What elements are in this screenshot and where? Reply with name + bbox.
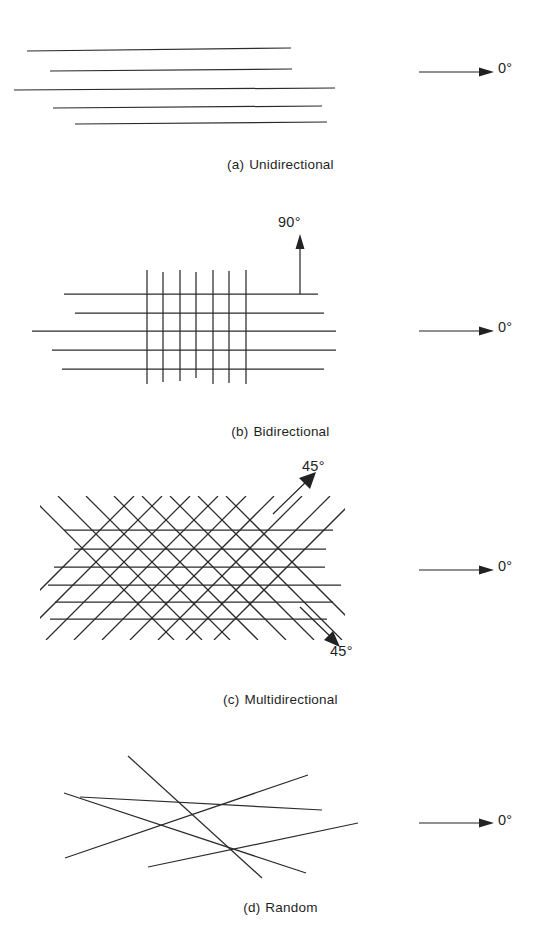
caption-index-d: (d) bbox=[243, 900, 260, 915]
panel-c-artwork bbox=[0, 440, 545, 710]
reference-arrow-0deg-b bbox=[419, 327, 494, 336]
fiber-lines-unidirectional bbox=[14, 48, 335, 124]
caption-text-b: Bidirectional bbox=[253, 424, 329, 439]
caption-text-a: Unidirectional bbox=[249, 157, 334, 172]
angle-label-minus45deg-c: 45° bbox=[330, 643, 353, 659]
reference-arrow-plus45deg-c bbox=[273, 472, 316, 514]
reference-arrow-minus45deg-c bbox=[300, 607, 340, 647]
angle-label-plus45deg-c: 45° bbox=[302, 458, 325, 474]
panel-multidirectional: 45° 45° 0° bbox=[0, 440, 545, 710]
angle-label-0deg-d: 0° bbox=[498, 812, 512, 828]
fiber-lines-horizontal-c bbox=[48, 530, 341, 619]
angle-label-0deg-c: 0° bbox=[498, 558, 512, 574]
caption-index-a: (a) bbox=[227, 157, 244, 172]
panel-bidirectional: 90° 0° bbox=[0, 190, 545, 440]
caption-random: (d)Random bbox=[0, 885, 545, 928]
angle-label-0deg-b: 0° bbox=[498, 319, 512, 335]
fiber-orientation-figure: 0° (a)Unidirectional bbox=[0, 0, 545, 928]
reference-arrow-0deg-a bbox=[419, 68, 494, 77]
reference-arrow-0deg-c bbox=[419, 566, 494, 575]
fiber-lines-random-d bbox=[64, 756, 358, 878]
caption-text-d: Random bbox=[265, 900, 317, 915]
reference-arrow-90deg-b bbox=[296, 234, 305, 294]
caption-unidirectional: (a)Unidirectional bbox=[0, 142, 545, 187]
fiber-lines-horizontal-b bbox=[32, 294, 336, 369]
caption-index-b: (b) bbox=[231, 424, 248, 439]
panel-b-artwork bbox=[0, 190, 545, 440]
angle-label-90deg-b: 90° bbox=[278, 214, 301, 230]
fiber-lines-vertical-b bbox=[147, 270, 246, 384]
angle-label-0deg-a: 0° bbox=[498, 60, 512, 76]
reference-arrow-0deg-d bbox=[419, 819, 494, 828]
